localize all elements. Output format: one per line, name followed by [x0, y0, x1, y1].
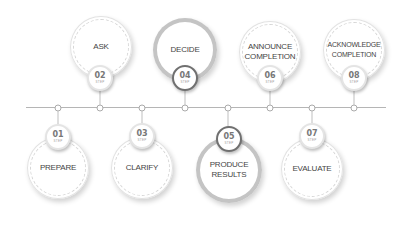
stem-2: [100, 89, 101, 105]
step-number-8: 08: [348, 72, 359, 80]
step-number-1: 01: [52, 131, 63, 139]
step-badge-6: 06 STEP: [257, 65, 283, 91]
step-word-7: STEP: [307, 138, 316, 142]
timeline-axis: [26, 107, 386, 108]
step-label-5: PRODUCE RESULTS: [210, 160, 249, 180]
step-label-7: EVALUATE: [292, 164, 331, 174]
step-number-4: 04: [179, 72, 190, 80]
step-badge-1: 01 STEP: [45, 124, 71, 150]
step-word-3: STEP: [137, 138, 146, 142]
step-label-8: ACKNOWLEDGE COMPLETION: [327, 40, 380, 60]
timeline-node-2: [97, 105, 104, 112]
step-label-6: ANNOUNCE COMPLETION: [245, 42, 296, 62]
step-number-6: 06: [264, 72, 275, 80]
timeline-node-6: [267, 105, 274, 112]
step-number-7: 07: [306, 130, 317, 138]
timeline-node-4: [182, 105, 189, 112]
step-number-5: 05: [223, 133, 234, 141]
stem-4: [185, 89, 186, 105]
step-badge-3: 03 STEP: [129, 123, 155, 149]
step-number-3: 03: [136, 130, 147, 138]
step-label-1: PREPARE: [40, 163, 76, 173]
step-word-5: STEP: [224, 141, 233, 145]
step-badge-5: 05 STEP: [216, 126, 242, 152]
step-label-4: DECIDE: [170, 45, 199, 55]
step-badge-8: 08 STEP: [341, 65, 367, 91]
stem-6: [270, 89, 271, 105]
step-word-4: STEP: [180, 80, 189, 84]
step-word-8: STEP: [349, 80, 358, 84]
step-number-2: 02: [94, 72, 105, 80]
step-word-6: STEP: [265, 80, 274, 84]
step-word-2: STEP: [95, 80, 104, 84]
step-badge-7: 07 STEP: [299, 123, 325, 149]
stem-8: [354, 89, 355, 105]
step-badge-4: 04 STEP: [172, 65, 198, 91]
timeline-node-8: [351, 105, 358, 112]
step-badge-2: 02 STEP: [87, 65, 113, 91]
step-label-2: ASK: [93, 42, 108, 52]
step-label-3: CLARIFY: [126, 163, 158, 173]
step-word-1: STEP: [53, 139, 62, 143]
